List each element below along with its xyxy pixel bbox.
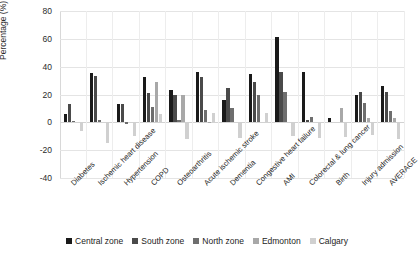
bar bbox=[249, 74, 252, 123]
bar bbox=[367, 118, 370, 122]
bar bbox=[355, 95, 358, 123]
bar bbox=[64, 114, 67, 122]
y-tick-label: 20 bbox=[43, 91, 52, 100]
legend-swatch bbox=[310, 238, 316, 244]
chart-legend: Central zoneSouth zoneNorth zoneEdmonton… bbox=[0, 236, 414, 246]
category-separator bbox=[139, 11, 140, 178]
bar bbox=[230, 108, 233, 122]
legend-item: Edmonton bbox=[253, 236, 301, 246]
bar bbox=[117, 104, 120, 122]
legend-item: Calgary bbox=[310, 236, 348, 246]
category-separator bbox=[165, 11, 166, 178]
bar bbox=[265, 113, 268, 122]
y-tick-label: 0 bbox=[47, 118, 52, 127]
bar bbox=[94, 76, 97, 122]
bar bbox=[344, 122, 347, 137]
category-separator bbox=[271, 11, 272, 178]
legend-label: North zone bbox=[202, 236, 244, 246]
legend-swatch bbox=[253, 238, 259, 244]
y-tick-label: -20 bbox=[40, 146, 52, 155]
bar bbox=[133, 122, 136, 136]
bar bbox=[302, 72, 305, 123]
bar bbox=[253, 82, 256, 122]
bar bbox=[177, 120, 180, 123]
bar bbox=[200, 77, 203, 122]
bar bbox=[340, 108, 343, 123]
bar bbox=[147, 93, 150, 122]
bar bbox=[226, 88, 229, 122]
bar bbox=[397, 122, 400, 139]
bar bbox=[222, 100, 225, 122]
legend-swatch bbox=[193, 238, 199, 244]
category-separator bbox=[404, 11, 405, 178]
bar bbox=[283, 92, 286, 123]
bar bbox=[121, 104, 124, 122]
category-separator bbox=[86, 11, 87, 178]
bar bbox=[106, 122, 109, 143]
bar bbox=[385, 92, 388, 123]
y-axis-title: Percentage (%) bbox=[0, 1, 8, 60]
bar bbox=[155, 82, 158, 122]
category-separator bbox=[298, 11, 299, 178]
bar bbox=[196, 72, 199, 122]
category-separator bbox=[324, 11, 325, 178]
category-separator bbox=[218, 11, 219, 178]
legend-swatch bbox=[66, 238, 72, 244]
legend-item: North zone bbox=[193, 236, 244, 246]
legend-label: Edmonton bbox=[262, 236, 301, 246]
legend-label: Central zone bbox=[75, 236, 123, 246]
legend-label: South zone bbox=[141, 236, 184, 246]
category-separator bbox=[377, 11, 378, 178]
bar bbox=[208, 122, 211, 123]
bar bbox=[125, 122, 128, 124]
legend-item: South zone bbox=[132, 236, 184, 246]
y-tick-label: 40 bbox=[43, 63, 52, 72]
bar bbox=[212, 113, 215, 123]
bar bbox=[151, 107, 154, 122]
bar bbox=[279, 72, 282, 122]
bar bbox=[310, 117, 313, 122]
bar bbox=[98, 120, 101, 123]
bar bbox=[159, 114, 162, 122]
legend-item: Central zone bbox=[66, 236, 123, 246]
y-tick-label: -40 bbox=[40, 174, 52, 183]
x-axis-labels: DiabetesIschemic heart diseaseHypertensi… bbox=[60, 179, 404, 231]
category-separator bbox=[351, 11, 352, 178]
bar bbox=[328, 118, 331, 122]
bar bbox=[143, 77, 146, 122]
bar bbox=[393, 118, 396, 122]
bar bbox=[238, 122, 241, 137]
bar bbox=[169, 90, 172, 122]
bar bbox=[363, 103, 366, 122]
bar bbox=[306, 120, 309, 123]
bar bbox=[359, 92, 362, 123]
legend-swatch bbox=[132, 238, 138, 244]
bar bbox=[389, 111, 392, 122]
bar bbox=[181, 95, 184, 123]
bar bbox=[80, 122, 83, 131]
y-axis-ticks: 806040200-20-40 bbox=[0, 11, 56, 178]
category-separator bbox=[112, 11, 113, 178]
legend-label: Calgary bbox=[319, 236, 348, 246]
bar bbox=[173, 95, 176, 123]
category-separator bbox=[245, 11, 246, 178]
category-separator bbox=[192, 11, 193, 178]
bar bbox=[291, 122, 294, 135]
bar bbox=[275, 37, 278, 122]
bar bbox=[381, 86, 384, 122]
bar bbox=[185, 122, 188, 139]
y-tick-label: 80 bbox=[43, 7, 52, 16]
bar bbox=[68, 104, 71, 122]
bar bbox=[318, 122, 321, 138]
y-tick-label: 60 bbox=[43, 35, 52, 44]
bar bbox=[257, 95, 260, 122]
bar bbox=[90, 73, 93, 122]
bar bbox=[204, 110, 207, 123]
bar bbox=[72, 121, 75, 122]
